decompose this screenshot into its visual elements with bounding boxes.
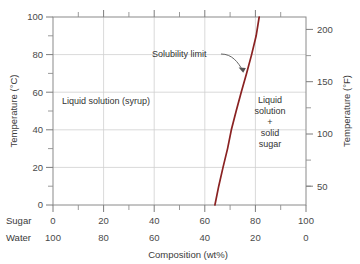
- region-label-line-1: Liquid: [258, 95, 282, 105]
- region-label-line-2: solution: [254, 106, 285, 116]
- region-label-line-4: solid: [261, 128, 280, 138]
- xtick-label-sugar-40: 40: [149, 215, 160, 226]
- x-axis-title: Composition (wt%): [148, 249, 228, 260]
- xtick-label-water-60: 60: [149, 232, 160, 243]
- y-axis-left-title: Temperature (°C): [8, 75, 19, 148]
- xtick-label-sugar-20: 20: [98, 215, 109, 226]
- region-label-line-5: sugar: [259, 139, 282, 149]
- row-label-water: Water: [6, 232, 31, 243]
- solubility-limit-label: Solubility limit: [152, 49, 207, 59]
- region-label-line-3: +: [267, 117, 272, 127]
- ytick-label-40: 40: [32, 124, 43, 135]
- xtick-label-water-20: 20: [250, 232, 261, 243]
- ytick-label-0: 0: [38, 199, 43, 210]
- xtick-label-water-0: 0: [303, 232, 308, 243]
- xtick-label-sugar-100: 100: [298, 215, 314, 226]
- ytick-label-60: 60: [32, 87, 43, 98]
- ytick-label-20: 20: [32, 162, 43, 173]
- xtick-label-water-100: 100: [45, 232, 61, 243]
- xtick-label-sugar-60: 60: [200, 215, 211, 226]
- yrtick-label-200: 200: [317, 24, 333, 35]
- xtick-label-sugar-0: 0: [50, 215, 55, 226]
- yrtick-label-100: 100: [317, 128, 333, 139]
- phase-diagram-figure: 0 20 40 60 80 100 Temperature (°C) 50 10…: [0, 0, 360, 264]
- region-label-liquid-solution: Liquid solution (syrup): [62, 96, 150, 106]
- yrtick-label-150: 150: [317, 76, 333, 87]
- xtick-label-sugar-80: 80: [250, 215, 261, 226]
- y-axis-right-title: Temperature (°F): [341, 75, 352, 147]
- ytick-label-80: 80: [32, 49, 43, 60]
- xtick-label-water-40: 40: [200, 232, 211, 243]
- chart-svg: 0 20 40 60 80 100 Temperature (°C) 50 10…: [0, 0, 360, 264]
- xtick-label-water-80: 80: [98, 232, 109, 243]
- ytick-label-100: 100: [27, 11, 43, 22]
- row-label-sugar: Sugar: [6, 215, 31, 226]
- yrtick-label-50: 50: [317, 181, 328, 192]
